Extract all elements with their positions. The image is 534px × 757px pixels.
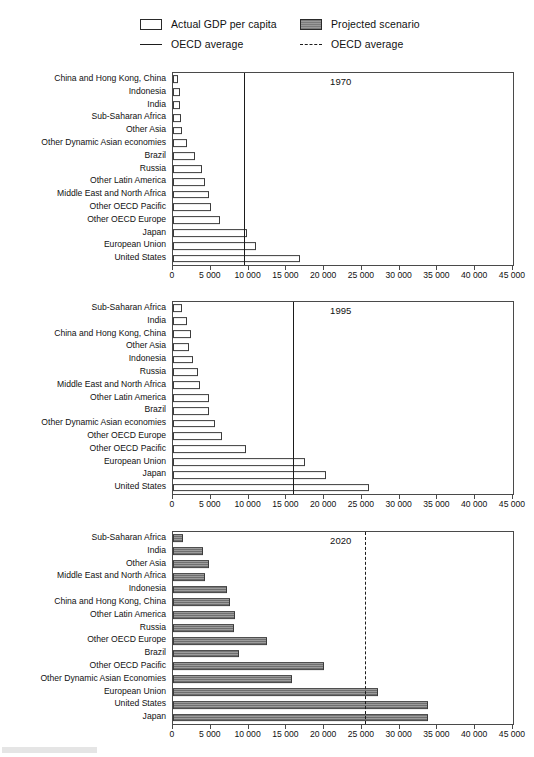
bar: [173, 714, 428, 722]
legend-swatch-open-icon: [140, 19, 162, 30]
x-axis-tick-label: 40 000: [461, 729, 487, 739]
chart-legend: Actual GDP per capita Projected scenario…: [0, 14, 534, 54]
bar: [173, 304, 182, 312]
category-label: Japan: [0, 467, 170, 480]
bar: [173, 317, 187, 325]
x-axis-tick-label: 40 000: [461, 270, 487, 280]
bar-row: [173, 443, 513, 456]
legend-label-actual-gdp: Actual GDP per capita: [171, 18, 277, 30]
oecd-average-line: [365, 532, 366, 724]
category-label: Other OECD Pacific: [0, 442, 170, 455]
category-label: Other Dynamic Asian economies: [0, 136, 170, 149]
bar-row: [173, 328, 513, 341]
category-label: Sub-Saharan Africa: [0, 110, 170, 123]
bar-row: [173, 583, 513, 596]
x-axis-tick-label: 45 000: [499, 729, 525, 739]
bar-row: [173, 239, 513, 252]
plot-wrapper: Sub-Saharan AfricaIndiaOther AsiaMiddle …: [0, 531, 534, 723]
bar: [173, 458, 305, 466]
plot-wrapper: China and Hong Kong, ChinaIndonesiaIndia…: [0, 72, 534, 264]
x-axis-tick-label: 10 000: [234, 729, 260, 739]
bar: [173, 624, 234, 632]
bar-row: [173, 673, 513, 686]
x-axis-tick-label: 30 000: [386, 499, 412, 509]
legend-row-series: Actual GDP per capita Projected scenario: [0, 14, 534, 34]
x-axis-tick-label: 25 000: [348, 499, 374, 509]
bar-row: [173, 124, 513, 137]
x-axis-tick-label: 0: [170, 499, 175, 509]
bar-row: [173, 609, 513, 622]
category-label: European Union: [0, 238, 170, 251]
x-axis-tick-label: 45 000: [499, 499, 525, 509]
x-axis-tick-label: 15 000: [272, 729, 298, 739]
x-axis: 05 00010 00015 00020 00025 00030 00035 0…: [172, 266, 512, 284]
x-axis-tick-label: 10 000: [234, 499, 260, 509]
bar: [173, 255, 300, 263]
category-axis-labels: Sub-Saharan AfricaIndiaOther AsiaMiddle …: [0, 531, 170, 723]
bar-row: [173, 468, 513, 481]
legend-item-oecd-average-dashed: OECD average: [300, 38, 403, 50]
x-axis-tick-label: 35 000: [423, 499, 449, 509]
legend-label-oecd-average-dashed: OECD average: [331, 38, 403, 50]
category-label: India: [0, 98, 170, 111]
bar-row: [173, 417, 513, 430]
bar: [173, 547, 203, 555]
bar: [173, 127, 182, 135]
bar-row: [173, 366, 513, 379]
bar: [173, 598, 230, 606]
bar-row: [173, 404, 513, 417]
x-axis-tick-label: 45 000: [499, 270, 525, 280]
bar-row: [173, 456, 513, 469]
legend-row-averages: OECD average OECD average: [0, 34, 534, 54]
bar: [173, 139, 187, 147]
legend-label-projected-scenario: Projected scenario: [331, 18, 420, 30]
chart-panel-2020: Sub-Saharan AfricaIndiaOther AsiaMiddle …: [0, 531, 534, 723]
bar-row: [173, 175, 513, 188]
bar-row: [173, 596, 513, 609]
plot-wrapper: Sub-Saharan AfricaIndiaChina and Hong Ko…: [0, 301, 534, 493]
bar: [173, 114, 181, 122]
category-label: Other Latin America: [0, 391, 170, 404]
category-label: Other Dynamic Asian Economies: [0, 672, 170, 685]
x-axis-tick-label: 15 000: [272, 270, 298, 280]
category-label: European Union: [0, 455, 170, 468]
legend-label-oecd-average-solid: OECD average: [171, 38, 243, 50]
category-label: United States: [0, 697, 170, 710]
bar-row: [173, 315, 513, 328]
x-axis-tick-label: 30 000: [386, 270, 412, 280]
bar-row: [173, 570, 513, 583]
bar: [173, 662, 324, 670]
x-axis-tick-label: 0: [170, 729, 175, 739]
bar: [173, 650, 239, 658]
category-label: China and Hong Kong, China: [0, 327, 170, 340]
bar-row: [173, 545, 513, 558]
category-label: European Union: [0, 685, 170, 698]
bar: [173, 573, 205, 581]
legend-item-projected-scenario: Projected scenario: [300, 18, 420, 30]
category-label: Russia: [0, 621, 170, 634]
category-label: Indonesia: [0, 85, 170, 98]
category-label: Brazil: [0, 149, 170, 162]
panel-year-label: 2020: [330, 535, 351, 546]
bar: [173, 191, 209, 199]
bar-row: [173, 622, 513, 635]
bar: [173, 394, 209, 402]
x-axis-tick-label: 30 000: [386, 729, 412, 739]
category-axis-labels: Sub-Saharan AfricaIndiaChina and Hong Ko…: [0, 301, 170, 493]
bar: [173, 381, 200, 389]
category-label: Other OECD Pacific: [0, 200, 170, 213]
bar: [173, 560, 209, 568]
legend-dashed-line-icon: [300, 44, 322, 45]
bar: [173, 152, 195, 160]
bar: [173, 356, 193, 364]
bar-row: [173, 252, 513, 265]
legend-item-actual-gdp: Actual GDP per capita: [140, 18, 300, 30]
oecd-average-line: [293, 302, 294, 494]
category-label: Brazil: [0, 646, 170, 659]
category-label: Japan: [0, 710, 170, 723]
bar-row: [173, 647, 513, 660]
category-label: Russia: [0, 365, 170, 378]
category-label: Other Latin America: [0, 174, 170, 187]
plot-area: [172, 301, 514, 495]
bar-row: [173, 698, 513, 711]
